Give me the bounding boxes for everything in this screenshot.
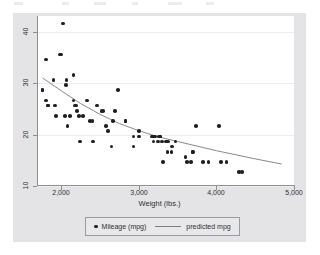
x-axis-title: Weight (lbs.) (13, 199, 306, 208)
data-point (52, 78, 56, 82)
x-tick-label-4000: 4,000 (199, 189, 233, 196)
data-point (91, 140, 95, 144)
data-point (81, 114, 85, 118)
scan-artifact-strip (0, 0, 320, 9)
data-point (137, 135, 141, 139)
graph-region: 40 30 20 10 2,000 3,000 4,000 5,000 Weig… (13, 13, 306, 242)
y-tick-label-30: 30 (22, 75, 29, 91)
data-point (111, 119, 115, 123)
data-point (78, 140, 82, 144)
legend-entry-mileage: Mileage (mpg) (86, 223, 146, 230)
data-point (75, 109, 79, 113)
plot-area (38, 16, 294, 185)
data-point (113, 109, 117, 113)
y-tick-label-20: 20 (22, 127, 29, 143)
y-tick-20 (33, 135, 37, 136)
y-tick-label-40: 40 (22, 24, 29, 40)
data-point (54, 114, 58, 118)
data-point (64, 83, 68, 87)
legend-label-mileage: Mileage (mpg) (102, 223, 147, 230)
data-point (184, 155, 188, 159)
data-point (240, 170, 244, 174)
y-tick-40 (33, 32, 37, 33)
data-point (85, 99, 89, 103)
x-tick-label-2000: 2,000 (44, 189, 78, 196)
data-point (189, 160, 193, 164)
data-point (217, 124, 221, 128)
y-tick-30 (33, 83, 37, 84)
data-point (219, 160, 223, 164)
scatter-marker-icon (94, 225, 98, 229)
data-point (63, 114, 67, 118)
line-sample-icon (155, 226, 181, 227)
data-point (201, 160, 205, 164)
y-tick-label-10: 10 (22, 178, 29, 194)
prediction-line (38, 16, 294, 185)
data-point (194, 124, 198, 128)
gridline-10 (38, 186, 294, 187)
data-point (161, 160, 165, 164)
chart-screenshot: 40 30 20 10 2,000 3,000 4,000 5,000 Weig… (0, 0, 320, 255)
data-point (68, 114, 72, 118)
x-tick-label-5000: 5,000 (277, 189, 311, 196)
chart-legend: Mileage (mpg) predicted mpg (85, 217, 240, 236)
data-point (191, 150, 195, 154)
data-point (225, 160, 229, 164)
data-point (44, 58, 48, 62)
data-point (101, 109, 105, 113)
y-tick-10 (33, 186, 37, 187)
data-point (44, 99, 48, 103)
x-tick-label-3000: 3,000 (122, 189, 156, 196)
x-axis-line (37, 185, 295, 186)
data-point (66, 124, 70, 128)
data-point (91, 119, 95, 123)
legend-label-predicted: predicted mpg (186, 223, 230, 230)
y-axis-line (37, 16, 38, 186)
data-point (137, 129, 141, 133)
data-point (166, 150, 170, 154)
data-point (116, 88, 120, 92)
data-point (104, 124, 108, 128)
data-point (106, 129, 110, 133)
data-point (170, 150, 174, 154)
legend-entry-predicted: predicted mpg (146, 223, 230, 230)
